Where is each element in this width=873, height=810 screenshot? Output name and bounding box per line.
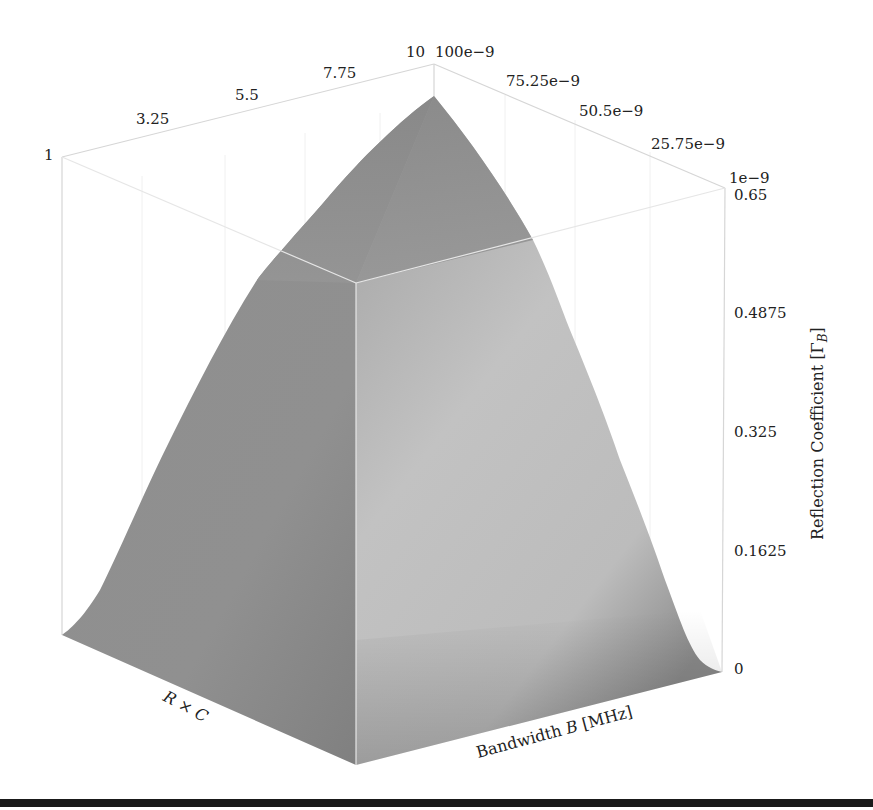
surface-plot: 1 3.25 5.5 7.75 10 100e−9 75.25e−9 50.5e…: [0, 0, 873, 810]
y-tick: 50.5e−9: [579, 102, 643, 120]
z-axis-ticks: 0.65 0.4875 0.325 0.1625 0: [734, 186, 787, 678]
z-tick: 0: [734, 660, 744, 678]
y-tick: 75.25e−9: [506, 72, 580, 90]
z-tick: 0.4875: [734, 304, 787, 322]
y-tick: 25.75e−9: [651, 135, 725, 153]
y-tick: 100e−9: [435, 43, 495, 61]
page-divider-bar: [0, 799, 873, 807]
x-axis-ticks: 1 3.25 5.5 7.75 10: [44, 43, 425, 164]
z-tick: 0.1625: [734, 542, 787, 560]
x-tick: 10: [406, 43, 425, 61]
z-axis-label: Reflection Coefficient [ΓB]: [808, 327, 830, 540]
x-tick: 1: [44, 146, 54, 164]
x-tick: 3.25: [136, 110, 169, 128]
z-tick: 0.65: [734, 186, 767, 204]
x-tick: 7.75: [323, 64, 356, 82]
y-tick: 1e−9: [729, 169, 770, 187]
z-tick: 0.325: [734, 423, 777, 441]
x-tick: 5.5: [235, 86, 259, 104]
